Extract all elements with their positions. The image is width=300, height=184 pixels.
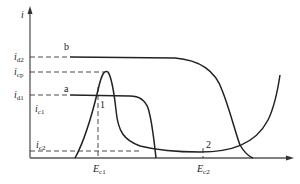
polarization-diagram: i id2 icp id1 ic1 ic2 Ec1 Ec2 b a 1 2 xyxy=(0,0,300,184)
tick-id2: id2 xyxy=(14,52,24,65)
curve-label-a: a xyxy=(64,84,68,94)
curve-label-b: b xyxy=(64,42,69,52)
tick-icp: icp xyxy=(14,67,23,80)
tick-id1: id1 xyxy=(14,90,24,103)
curve-1 xyxy=(75,71,280,158)
tick-ic1: ic1 xyxy=(35,104,44,117)
point-label-1: 1 xyxy=(100,100,105,110)
curve-a xyxy=(70,95,156,158)
tick-ic2: ic2 xyxy=(36,140,45,153)
y-axis-label: i xyxy=(21,10,24,20)
reference-lines xyxy=(30,57,203,158)
tick-ec2: Ec2 xyxy=(197,164,210,177)
tick-ec1: Ec1 xyxy=(93,164,106,177)
x-axis-arrow-icon xyxy=(286,156,294,161)
diagram-canvas xyxy=(0,0,300,184)
point-label-2: 2 xyxy=(206,140,211,150)
y-axis-arrow-icon xyxy=(28,6,33,14)
